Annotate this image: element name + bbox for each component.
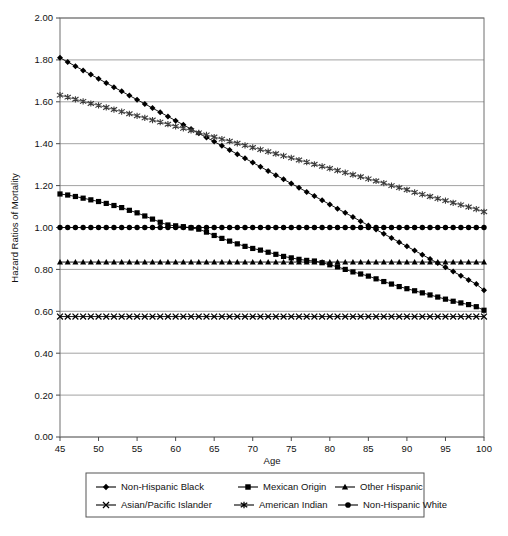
circle-marker — [273, 225, 278, 230]
circle-marker — [435, 225, 440, 230]
circle-marker — [188, 225, 193, 230]
circle-marker — [196, 225, 201, 230]
circle-marker — [343, 225, 348, 230]
asterisk-marker — [419, 191, 425, 197]
square-marker — [127, 208, 132, 213]
square-marker — [443, 297, 448, 302]
asterisk-marker — [465, 204, 471, 210]
square-marker — [481, 308, 486, 313]
diamond-marker — [126, 93, 132, 99]
diamond-marker — [419, 252, 425, 258]
square-marker — [358, 271, 363, 276]
circle-marker — [104, 225, 109, 230]
x-tick-label: 85 — [363, 443, 374, 454]
hazard-ratio-line-chart: 0.000.200.400.600.801.001.201.401.601.80… — [0, 0, 508, 536]
diamond-marker — [466, 277, 472, 283]
y-tick-label: 1.40 — [35, 138, 54, 149]
circle-marker — [204, 225, 209, 230]
circle-marker — [420, 225, 425, 230]
circle-marker — [65, 225, 70, 230]
square-marker — [57, 191, 62, 196]
asterisk-marker — [72, 96, 78, 102]
asterisk-marker — [342, 170, 348, 176]
square-marker — [235, 241, 240, 246]
square-marker — [134, 210, 139, 215]
diamond-marker — [311, 193, 317, 199]
diamond-marker — [335, 206, 341, 212]
x-tick-label: 100 — [476, 443, 492, 454]
circle-marker — [219, 225, 224, 230]
asterisk-marker — [111, 106, 117, 112]
y-tick-label: 0.60 — [35, 306, 54, 317]
square-marker — [373, 276, 378, 281]
asterisk-marker — [219, 136, 225, 142]
asterisk-marker — [165, 121, 171, 127]
diamond-marker — [72, 63, 78, 69]
y-axis-title: Hazard Ratios of Mortality — [9, 173, 20, 283]
asterisk-marker — [327, 165, 333, 171]
x-axis-title: Age — [264, 455, 281, 466]
asterisk-marker — [95, 102, 101, 108]
diamond-marker — [119, 88, 125, 94]
circle-marker — [397, 225, 402, 230]
circle-marker — [165, 225, 170, 230]
circle-marker — [258, 225, 263, 230]
series-other-hispanic — [57, 259, 487, 264]
square-marker — [412, 288, 417, 293]
diamond-marker — [88, 72, 94, 78]
circle-marker — [265, 225, 270, 230]
circle-marker — [80, 225, 85, 230]
y-tick-label: 1.80 — [35, 54, 54, 65]
circle-marker — [304, 225, 309, 230]
circle-marker — [466, 225, 471, 230]
square-marker — [281, 254, 286, 259]
circle-marker — [358, 225, 363, 230]
asterisk-marker — [365, 176, 371, 182]
y-tick-label: 0.00 — [35, 431, 54, 442]
circle-marker — [312, 225, 317, 230]
y-tick-label: 1.00 — [35, 222, 54, 233]
y-axis-ticks: 0.000.200.400.600.801.001.201.401.601.80… — [35, 12, 61, 442]
square-marker — [245, 484, 250, 489]
x-tick-label: 65 — [209, 443, 220, 454]
square-marker — [65, 192, 70, 197]
square-marker — [451, 299, 456, 304]
circle-marker — [327, 225, 332, 230]
x-tick-label: 75 — [286, 443, 297, 454]
circle-marker — [111, 225, 116, 230]
diamond-marker — [358, 218, 364, 224]
legend-item-label: Non-Hispanic Black — [121, 481, 204, 492]
asterisk-marker — [358, 174, 364, 180]
circle-marker — [366, 225, 371, 230]
asterisk-marker — [450, 200, 456, 206]
circle-marker — [119, 225, 124, 230]
circle-marker — [319, 225, 324, 230]
circle-marker — [73, 225, 78, 230]
diamond-marker — [257, 164, 263, 170]
asterisk-marker — [250, 144, 256, 150]
diamond-marker — [96, 76, 102, 82]
diamond-marker — [80, 67, 86, 73]
legend-item-label: American Indian — [259, 499, 328, 510]
asterisk-marker — [381, 180, 387, 186]
square-marker — [350, 269, 355, 274]
x-tick-label: 70 — [247, 443, 258, 454]
asterisk-marker — [180, 125, 186, 131]
circle-marker — [381, 225, 386, 230]
asterisk-marker — [119, 109, 125, 115]
square-marker — [366, 274, 371, 279]
diamond-marker — [103, 80, 109, 86]
diamond-marker — [404, 243, 410, 249]
circle-marker — [142, 225, 147, 230]
y-tick-label: 1.60 — [35, 96, 54, 107]
circle-marker — [57, 225, 62, 230]
asterisk-marker — [334, 167, 340, 173]
diamond-marker — [111, 84, 117, 90]
y-tick-label: 2.00 — [35, 12, 54, 23]
asterisk-marker — [350, 172, 356, 178]
diamond-marker — [412, 248, 418, 254]
x-tick-label: 50 — [93, 443, 104, 454]
asterisk-marker — [134, 113, 140, 119]
asterisk-marker — [88, 100, 94, 106]
circle-marker — [373, 225, 378, 230]
